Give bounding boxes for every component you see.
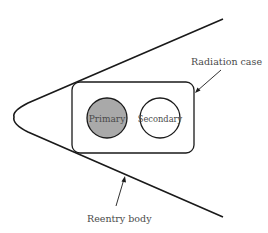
radiation-case-label: Radiation case — [191, 56, 262, 67]
warhead-diagram: Primary Secondary Radiation case Reentry… — [0, 0, 268, 233]
reentry-body-label: Reentry body — [87, 213, 152, 224]
radiation-case-arrow — [197, 70, 221, 91]
secondary-label: Secondary — [138, 114, 183, 124]
reentry-body-arrowhead — [122, 176, 127, 183]
primary-label: Primary — [89, 114, 126, 124]
reentry-body-arrow — [116, 179, 124, 206]
